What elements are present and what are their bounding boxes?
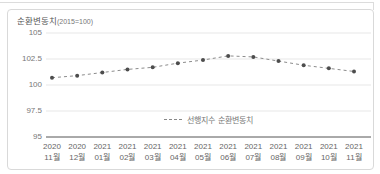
chart-title-main: 순환변동치 [17, 16, 57, 26]
chart-legend: 선행지수 순환변동치 [46, 114, 371, 125]
data-point [277, 59, 281, 63]
chart-title-unit: (2015=100) [57, 18, 93, 25]
right-edge-line [373, 2, 374, 10]
top-divider-line [0, 2, 373, 3]
data-point [327, 66, 331, 70]
x-tick-label: 202111월 [336, 141, 372, 163]
data-point [75, 74, 79, 78]
legend-label: 선행지수 순환변동치 [187, 114, 252, 125]
data-point [251, 55, 255, 59]
data-point [201, 58, 205, 62]
data-point [226, 54, 230, 58]
data-point [100, 71, 104, 75]
legend-dashed-line-icon [164, 119, 182, 120]
data-point [126, 67, 130, 71]
y-tick-label: 102.5 [8, 54, 42, 64]
data-point [352, 69, 356, 73]
data-point [151, 65, 155, 69]
y-tick-label: 105 [8, 28, 42, 38]
data-point [176, 61, 180, 65]
y-tick-label: 100 [8, 80, 42, 90]
chart-title: 순환변동치(2015=100) [17, 14, 93, 26]
data-point [302, 63, 306, 67]
y-tick-label: 97.5 [8, 106, 42, 116]
chart-card: 순환변동치(2015=100) 105102.510097.595 202011… [7, 9, 374, 170]
data-point [50, 76, 54, 80]
